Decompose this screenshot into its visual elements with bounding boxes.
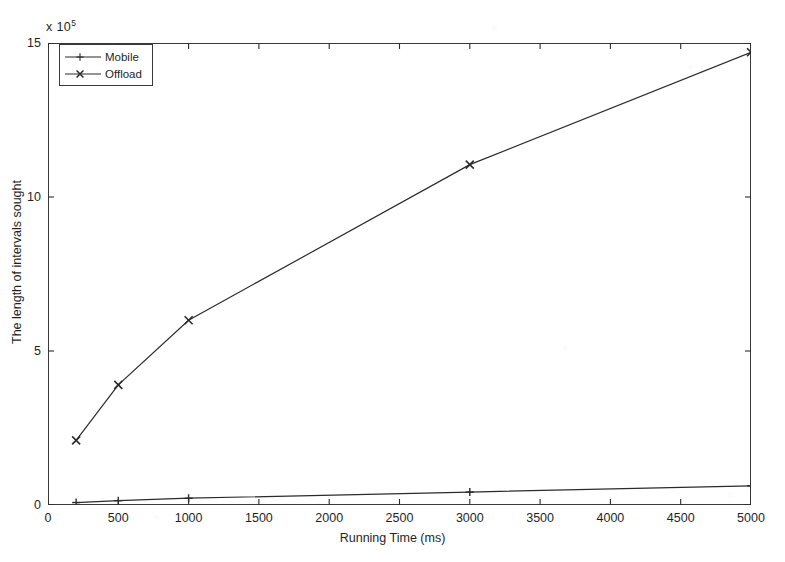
y-tick-label-15: 15 <box>27 36 41 50</box>
chart-plot-svg <box>48 43 751 505</box>
y-tick-label-10: 10 <box>27 190 41 204</box>
y-tick-label-0: 0 <box>34 498 41 512</box>
x-axis-title: Running Time (ms) <box>0 531 785 545</box>
x-tick-label-3500: 3500 <box>526 511 554 525</box>
legend-label-mobile: Mobile <box>105 51 139 63</box>
chart-legend: Mobile Offload <box>59 44 153 86</box>
x-tick-label-1000: 1000 <box>175 511 203 525</box>
x-tick-label-0: 0 <box>45 511 52 525</box>
plot-area <box>48 43 751 505</box>
y-axis-exponent-power: 5 <box>71 18 76 28</box>
x-tick-label-2500: 2500 <box>386 511 414 525</box>
legend-marker-x-icon <box>64 67 102 81</box>
y-axis-title-wrapper: The length of intervals sought <box>7 162 25 362</box>
y-axis-exponent-base: x 10 <box>46 20 71 34</box>
legend-marker-plus-icon <box>64 50 102 64</box>
legend-label-offload: Offload <box>105 68 142 80</box>
x-tick-label-3000: 3000 <box>456 511 484 525</box>
x-tick-label-4000: 4000 <box>596 511 624 525</box>
y-axis-exponent-label: x 105 <box>46 18 76 34</box>
x-tick-label-1500: 1500 <box>245 511 273 525</box>
legend-item-offload: Offload <box>60 65 152 82</box>
x-tick-label-500: 500 <box>108 511 129 525</box>
legend-item-mobile: Mobile <box>60 48 152 65</box>
x-tick-label-4500: 4500 <box>667 511 695 525</box>
x-axis-tick-labels: 0500100015002000250030003500400045005000 <box>48 511 751 529</box>
x-tick-label-2000: 2000 <box>315 511 343 525</box>
y-tick-label-5: 5 <box>34 344 41 358</box>
figure-canvas: x 105 051015 Mobile Offload 050010001500… <box>0 0 785 562</box>
y-axis-title: The length of intervals sought <box>10 180 24 344</box>
x-tick-label-5000: 5000 <box>737 511 765 525</box>
